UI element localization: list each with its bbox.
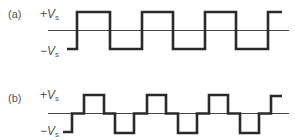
panel-a-positive-label: +Vs	[40, 7, 59, 22]
waveform-diagram: (a) +Vs −Vs (b) +Vs −Vs	[0, 0, 295, 140]
panel-b: (b) +Vs −Vs	[8, 88, 289, 139]
panel-b-label: (b)	[8, 92, 21, 104]
panel-b-positive-label: +Vs	[40, 88, 59, 103]
panel-a-negative-label: −Vs	[40, 44, 59, 59]
panel-a: (a) +Vs −Vs	[8, 7, 289, 59]
panel-a-label: (a)	[8, 8, 21, 20]
panel-b-negative-label: −Vs	[40, 124, 59, 139]
